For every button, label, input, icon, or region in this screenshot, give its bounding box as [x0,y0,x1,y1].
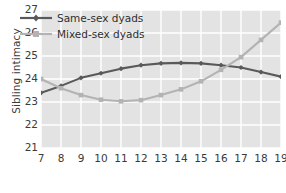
x-tick-label: 15 [191,152,211,164]
x-tick-label: 17 [231,152,251,164]
data-point-marker [199,79,204,84]
x-tick-label: 7 [31,152,51,164]
legend-item-mixed-sex: Mixed-sex dyads [19,26,154,42]
x-tick-label: 14 [171,152,191,164]
x-tick-label: 16 [211,152,231,164]
data-point-marker [219,68,224,73]
data-point-marker [159,93,164,98]
x-tick-label: 10 [91,152,111,164]
legend-item-same-sex: Same-sex dyads [19,10,154,26]
data-point-marker [158,61,163,66]
data-point-marker [138,63,143,68]
data-point-marker [239,55,244,60]
data-point-marker [198,61,203,66]
data-point-marker [41,77,43,82]
data-point-marker [179,87,184,92]
x-tick-label: 12 [131,152,151,164]
x-tick-label: 9 [71,152,91,164]
data-point-marker [178,60,183,65]
legend-swatch-same-sex [19,12,53,24]
legend: Same-sex dyads Mixed-sex dyads [19,10,154,42]
data-point-marker [259,38,264,43]
x-tick-label: 8 [51,152,71,164]
data-point-marker [258,70,263,75]
data-point-marker [118,66,123,71]
legend-swatch-mixed-sex [19,28,53,40]
data-point-marker [79,93,84,98]
legend-label-same-sex: Same-sex dyads [53,12,143,24]
data-point-marker [279,20,281,25]
x-tick-label: 11 [111,152,131,164]
legend-label-mixed-sex: Mixed-sex dyads [53,28,145,40]
data-point-marker [99,97,104,102]
data-point-marker [218,63,223,68]
chart-figure: Sibling intimacy 27262524232221 78910111… [0,0,286,193]
data-point-marker [59,86,64,91]
data-point-marker [119,99,124,104]
data-point-marker [139,98,144,103]
x-tick-label: 13 [151,152,171,164]
x-tick-label: 18 [251,152,271,164]
x-tick-label: 19 [271,152,286,164]
data-point-marker [238,65,243,70]
data-point-marker [98,71,103,76]
